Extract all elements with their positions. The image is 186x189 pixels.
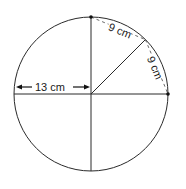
- radius-label: 13 cm: [35, 81, 65, 93]
- chord-upper-label: 9 cm: [107, 20, 134, 40]
- radius-dimension: 13 cm: [16, 81, 90, 93]
- diagonal-radius: [91, 40, 145, 94]
- circle-diagram: 13 cm 9 cm 9 cm: [0, 0, 186, 189]
- arrow-left-icon: [16, 85, 22, 90]
- chord-lower-label: 9 cm: [145, 54, 165, 81]
- right-point: [166, 92, 170, 96]
- top-point: [89, 15, 93, 19]
- arrow-right-icon: [84, 85, 90, 90]
